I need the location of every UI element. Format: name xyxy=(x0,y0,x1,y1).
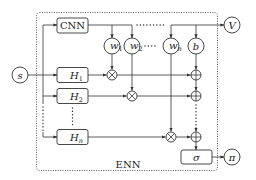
enn-label: ENN xyxy=(116,159,141,170)
svg-text:s: s xyxy=(17,70,22,81)
add-node-1 xyxy=(191,70,201,80)
svg-text:b: b xyxy=(193,41,199,52)
head-block-hn: Hn xyxy=(57,130,88,146)
multiply-node-1 xyxy=(107,70,117,80)
svg-text:CNN: CNN xyxy=(60,20,85,31)
multiply-node-2 xyxy=(127,91,137,101)
head-block-h1: H1 xyxy=(57,68,88,84)
add-node-2 xyxy=(191,91,201,101)
input-node-s: s xyxy=(12,67,28,83)
svg-text:π: π xyxy=(228,152,236,163)
svg-text:σ: σ xyxy=(193,152,201,163)
weight-node-w2: w2 xyxy=(124,38,143,54)
value-output-node: V xyxy=(224,17,240,33)
weight-node-w1: w1 xyxy=(104,38,123,54)
policy-output-node: π xyxy=(224,149,240,165)
cnn-block: CNN xyxy=(57,18,88,33)
head-block-h2: H2 xyxy=(57,89,88,105)
weight-node-wn: wn xyxy=(163,38,182,54)
add-node-n xyxy=(191,132,201,142)
enn-architecture-diagram: ENN s CNN V w1 w2 wn b xyxy=(0,0,256,180)
bias-node-b: b xyxy=(188,38,204,54)
activation-block-sigma: σ xyxy=(181,150,212,164)
multiply-node-n xyxy=(166,132,176,142)
